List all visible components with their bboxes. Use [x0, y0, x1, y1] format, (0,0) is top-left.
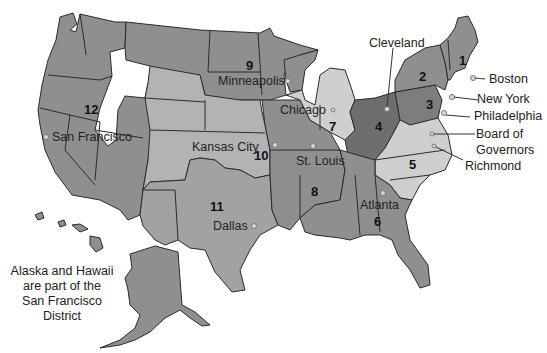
- city-dot-kansas-city: [273, 143, 278, 148]
- city-label-dallas: Dallas: [213, 220, 248, 233]
- district-number-5: 5: [409, 158, 416, 171]
- city-dot-st-louis: [311, 144, 316, 149]
- label-board-line1: Board of: [476, 128, 523, 141]
- note-line-2: are part of the: [2, 279, 122, 294]
- city-dot-minneapolis: [286, 79, 291, 84]
- district-number-12: 12: [84, 103, 98, 116]
- district-number-6: 6: [374, 215, 381, 228]
- city-dot-board: [430, 132, 434, 136]
- city-dot-cleveland: [385, 107, 390, 112]
- city-dot-richmond: [432, 144, 436, 148]
- city-label-cleveland: Cleveland: [369, 37, 425, 50]
- city-dot-philadelphia: [442, 111, 447, 116]
- alaska-hawaii-note: Alaska and Hawaii are part of the San Fr…: [2, 264, 122, 324]
- city-dot-chicago: [331, 108, 335, 112]
- district-number-10: 10: [254, 149, 268, 162]
- city-label-new-york: New York: [477, 93, 530, 106]
- city-label-philadelphia: Philadelphia: [474, 110, 542, 123]
- city-label-kansas-city: Kansas City: [192, 141, 259, 154]
- city-label-atlanta: Atlanta: [360, 199, 399, 212]
- city-dot-boston: [471, 76, 476, 81]
- district-number-3: 3: [426, 98, 433, 111]
- district-number-1: 1: [459, 54, 466, 67]
- city-label-st-louis: St. Louis: [296, 155, 345, 168]
- city-label-richmond: Richmond: [465, 160, 521, 173]
- city-label-san-francisco: San Francisco: [52, 131, 132, 144]
- district-number-4: 4: [375, 120, 382, 133]
- city-label-chicago: Chicago: [280, 104, 326, 117]
- district-number-11: 11: [210, 200, 224, 213]
- district-number-9: 9: [246, 59, 253, 72]
- city-label-minneapolis: Minneapolis: [218, 75, 285, 88]
- district-number-7: 7: [329, 120, 336, 133]
- city-dot-atlanta: [381, 191, 386, 196]
- hawaii: [35, 212, 103, 252]
- district-number-2: 2: [419, 70, 426, 83]
- label-board-line2: Governors: [476, 144, 534, 157]
- city-dot-dallas: [252, 224, 257, 229]
- district-number-8: 8: [311, 185, 318, 198]
- note-line-1: Alaska and Hawaii: [2, 264, 122, 279]
- city-label-boston: Boston: [489, 73, 528, 86]
- city-dot-san-francisco: [44, 135, 49, 140]
- city-dot-new-york: [450, 95, 455, 100]
- note-line-3: San Francisco District: [2, 294, 122, 324]
